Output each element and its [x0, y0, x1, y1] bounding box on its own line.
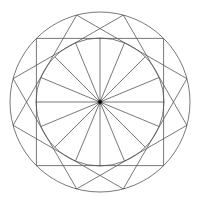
spoke — [55, 102, 100, 147]
spoke — [55, 57, 100, 102]
spoke — [100, 57, 145, 102]
center-dot — [98, 100, 102, 104]
spoke — [100, 102, 145, 147]
geometric-star-figure — [0, 0, 201, 205]
